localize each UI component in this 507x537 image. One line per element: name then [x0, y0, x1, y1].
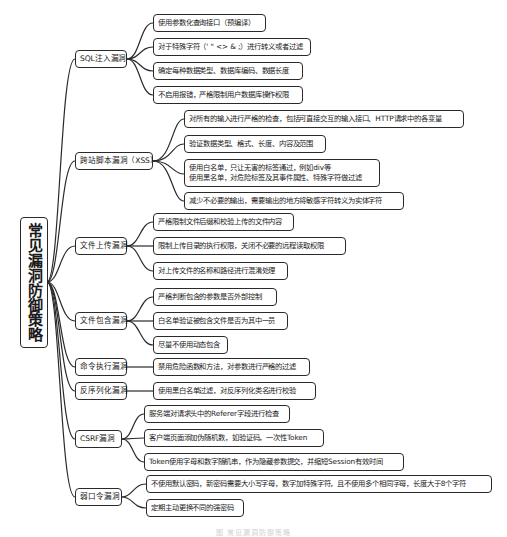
leaf-node: 对上传文件的名称和路径进行混淆处理	[153, 262, 288, 280]
leaf-node: 限制上传目录的执行权限，关闭不必要的远程读取权限	[153, 237, 346, 255]
leaf-label: 验证数据类型、格式、长度、内容及范围	[189, 139, 313, 149]
category-label: 弱口令漏洞	[80, 492, 120, 502]
category-label: CSRF漏洞	[80, 434, 115, 444]
leaf-node: 使用参数化查询接口（预编译）	[153, 14, 266, 32]
leaf-node: Token使用字母和数字随机串，作为隐藏参数提交，并缩短Session有效时间	[144, 453, 404, 471]
category-deserialization: 反序列化漏洞	[75, 382, 127, 400]
category-sql-injection: SQL注入漏洞	[75, 50, 127, 68]
leaf-node: 白名单验证被包含文件是否为其中一员	[153, 312, 288, 330]
category-label: 文件上传漏洞	[80, 241, 127, 251]
leaf-label: 使用白名单，只让无害的标签通过，例如div等	[189, 163, 362, 173]
leaf-label: Token使用字母和数字随机串，作为隐藏参数提交，并缩短Session有效时间	[149, 457, 383, 467]
category-command-execution: 命令执行漏洞	[75, 358, 127, 376]
leaf-label: 确定每种数据类型、数据库编码、数据长度	[158, 66, 289, 76]
leaf-node: 定期主动更换不同的强密码	[146, 499, 244, 517]
leaf-label: 尽量不使用动态包含	[158, 340, 220, 350]
leaf-label: 对上传文件的名称和路径进行混淆处理	[158, 266, 275, 276]
leaf-node: 减少不必要的输出，需要输出的地方将敏感字符转义为实体字符	[184, 192, 404, 210]
leaf-label: 服务端对请求头中的Referer字段进行检查	[149, 409, 278, 419]
category-xss: 跨站脚本漏洞（XSS）	[75, 152, 153, 170]
leaf-node: 对所有的输入进行严格的检查，包括可直接交互的输入接口、HTTP请求中的各变量	[184, 110, 464, 128]
leaf-node: 尽量不使用动态包含	[153, 336, 228, 354]
leaf-label: 对所有的输入进行严格的检查，包括可直接交互的输入接口、HTTP请求中的各变量	[189, 114, 442, 124]
category-label: 命令执行漏洞	[80, 362, 127, 372]
root-label: 常见漏洞防御策略	[25, 223, 43, 342]
leaf-label: 严格判断包含的参数是否外部控制	[158, 292, 262, 302]
leaf-label: 不使用默认密码，新密码需要大小写字母，数字加特殊字符，且不使用多个相同字母，长度…	[151, 479, 466, 489]
leaf-node: 严格判断包含的参数是否外部控制	[153, 288, 277, 306]
leaf-label: 禁用危险函数和方法，对参数进行严格的过滤	[158, 362, 296, 372]
category-file-inclusion: 文件包含漏洞	[75, 312, 127, 330]
category-label: 文件包含漏洞	[80, 316, 127, 326]
category-label: 跨站脚本漏洞（XSS）	[80, 156, 158, 166]
leaf-label: 使用黑白名单过滤，对反序列化类名进行校验	[158, 386, 296, 396]
leaf-label: 使用参数化查询接口（预编译）	[158, 18, 255, 28]
leaf-node: 对于特殊字符（' " <> & ;）进行转义或者过滤	[153, 38, 311, 56]
leaf-label: 使用黑名单，对危险标签及其事件属性、特殊字符做过滤	[189, 173, 362, 183]
leaf-label: 不启用报错，严格限制用户数据库操作权限	[158, 90, 289, 100]
leaf-label: 白名单验证被包含文件是否为其中一员	[158, 316, 275, 326]
category-label: SQL注入漏洞	[80, 54, 126, 64]
leaf-label: 严格限制文件后缀和校验上传的文件内容	[158, 217, 282, 227]
leaf-label: 客户端页面添加伪随机数，如验证码，一次性Token	[149, 433, 307, 443]
leaf-node: 不使用默认密码，新密码需要大小写字母，数字加特殊字符，且不使用多个相同字母，长度…	[146, 475, 492, 493]
leaf-node: 确定每种数据类型、数据库编码、数据长度	[153, 62, 303, 80]
category-file-upload: 文件上传漏洞	[75, 237, 127, 255]
figure-caption: 图 常见漏洞防御策略	[0, 527, 507, 537]
leaf-node: 不启用报错，严格限制用户数据库操作权限	[153, 86, 303, 104]
root-node: 常见漏洞防御策略	[20, 217, 48, 348]
leaf-node-multiline: 使用白名单，只让无害的标签通过，例如div等 使用黑名单，对危险标签及其事件属性…	[184, 159, 380, 187]
leaf-label: 减少不必要的输出，需要输出的地方将敏感字符转义为实体字符	[189, 196, 382, 206]
leaf-node: 禁用危险函数和方法，对参数进行严格的过滤	[153, 358, 310, 376]
category-csrf: CSRF漏洞	[75, 430, 122, 448]
leaf-label: 限制上传目录的执行权限，关闭不必要的远程读取权限	[158, 241, 324, 251]
leaf-node: 使用黑白名单过滤，对反序列化类名进行校验	[153, 382, 316, 400]
leaf-label: 定期主动更换不同的强密码	[151, 503, 234, 513]
leaf-node: 严格限制文件后缀和校验上传的文件内容	[153, 213, 294, 231]
leaf-node: 服务端对请求头中的Referer字段进行检查	[144, 405, 290, 423]
leaf-node: 客户端页面添加伪随机数，如验证码，一次性Token	[144, 429, 324, 447]
leaf-label: 对于特殊字符（' " <> & ;）进行转义或者过滤	[158, 42, 302, 52]
category-label: 反序列化漏洞	[80, 386, 127, 396]
leaf-node: 验证数据类型、格式、长度、内容及范围	[184, 135, 326, 153]
category-weak-password: 弱口令漏洞	[75, 488, 122, 506]
